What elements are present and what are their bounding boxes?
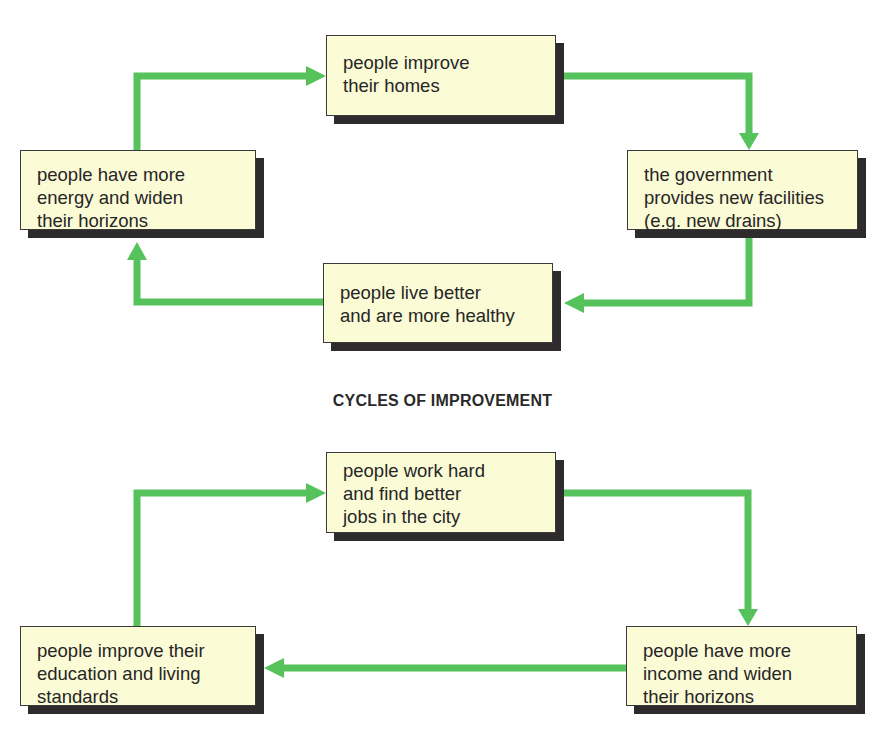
arrowhead-up-icon bbox=[127, 242, 147, 260]
arrowhead-right-icon bbox=[306, 66, 326, 86]
node-text-line: people improve bbox=[343, 51, 541, 74]
arrowhead-down-icon bbox=[738, 609, 758, 626]
node-text-line: people have more bbox=[37, 163, 241, 186]
node-government-facilities: the government provides new facilities (… bbox=[627, 150, 858, 230]
node-improve-education: people improve their education and livin… bbox=[20, 626, 256, 706]
arrowhead-left-icon bbox=[264, 658, 284, 678]
arrowhead-down-icon bbox=[739, 133, 759, 150]
node-text-line: people improve their bbox=[37, 639, 241, 662]
node-text-line: and find better bbox=[343, 482, 541, 505]
diagram-title: CYCLES OF IMPROVEMENT bbox=[0, 392, 885, 410]
node-more-energy: people have more energy and widen their … bbox=[20, 150, 256, 230]
node-text-line: people live better bbox=[340, 281, 538, 304]
node-text-line: jobs in the city bbox=[343, 505, 541, 528]
node-improve-homes: people improve their homes bbox=[326, 35, 556, 116]
node-text-line: their homes bbox=[343, 74, 541, 97]
arrowhead-right-icon bbox=[306, 483, 326, 503]
node-text-line: education and living bbox=[37, 662, 241, 685]
arrow-work-to-income bbox=[563, 493, 748, 612]
arrow-energy-to-homes bbox=[137, 76, 310, 150]
arrow-education-to-work bbox=[137, 493, 310, 626]
node-text-line: their horizons bbox=[643, 685, 842, 708]
node-text-line: energy and widen bbox=[37, 186, 241, 209]
node-more-income: people have more income and widen their … bbox=[626, 626, 857, 706]
node-work-hard: people work hard and find better jobs in… bbox=[326, 452, 556, 533]
arrowhead-left-icon bbox=[564, 293, 584, 313]
node-live-better: people live better and are more healthy bbox=[323, 263, 553, 343]
arrow-homes-to-government bbox=[563, 76, 749, 137]
node-text-line: income and widen bbox=[643, 662, 842, 685]
node-text-line: (e.g. new drains) bbox=[644, 209, 843, 232]
node-text-line: people have more bbox=[643, 639, 842, 662]
node-text-line: provides new facilities bbox=[644, 186, 843, 209]
arrow-government-to-live-better bbox=[580, 238, 749, 303]
node-text-line: people work hard bbox=[343, 459, 541, 482]
node-text-line: and are more healthy bbox=[340, 304, 538, 327]
node-text-line: the government bbox=[644, 163, 843, 186]
arrow-live-better-to-energy bbox=[137, 258, 323, 302]
node-text-line: standards bbox=[37, 685, 241, 708]
node-text-line: their horizons bbox=[37, 209, 241, 232]
